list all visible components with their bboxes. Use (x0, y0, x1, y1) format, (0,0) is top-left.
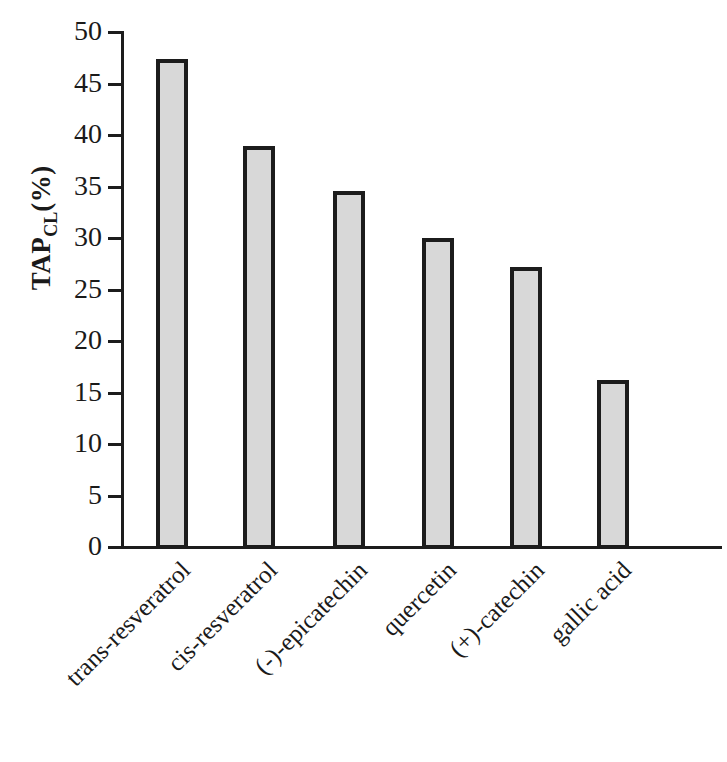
bar (333, 191, 365, 549)
bar (422, 238, 454, 549)
y-axis-tick-label: 35 (36, 172, 102, 200)
x-axis-tick-label-text: quercetin (376, 556, 462, 642)
y-axis-tick-label: 10 (36, 429, 102, 457)
y-axis-tick-25 (108, 289, 122, 292)
y-axis-tick-15 (108, 392, 122, 395)
y-axis-tick-label: 5 (36, 481, 102, 509)
bar (510, 267, 542, 549)
y-axis-tick-50 (108, 31, 122, 34)
y-axis-tick-10 (108, 443, 122, 446)
y-axis-tick-40 (108, 134, 122, 137)
y-axis-tick-label: 25 (36, 275, 102, 303)
y-axis-tick-label: 30 (36, 223, 102, 251)
bar (597, 380, 629, 549)
plot-area: 05101520253035404550 trans-resveratrolci… (0, 0, 727, 762)
y-axis-tick-0 (108, 546, 122, 549)
y-axis-tick-30 (108, 237, 122, 240)
y-axis-tick-label: 15 (36, 378, 102, 406)
x-axis-tick-label-text: (+)-catechin (444, 556, 550, 662)
y-axis-tick-label: 0 (36, 532, 102, 560)
y-axis-tick-label: 40 (36, 120, 102, 148)
bar-chart-figure: TAPCL(%) 05101520253035404550 trans-resv… (0, 0, 727, 762)
y-axis-tick-35 (108, 186, 122, 189)
y-axis-tick-5 (108, 495, 122, 498)
x-axis-tick-label-text: gallic acid (544, 556, 637, 649)
y-axis-tick-45 (108, 83, 122, 86)
bar (156, 59, 188, 549)
y-axis-tick-label: 20 (36, 326, 102, 354)
y-axis-tick-label: 50 (36, 17, 102, 45)
y-axis-tick-20 (108, 340, 122, 343)
y-axis-tick-label: 45 (36, 69, 102, 97)
bar (243, 146, 275, 549)
